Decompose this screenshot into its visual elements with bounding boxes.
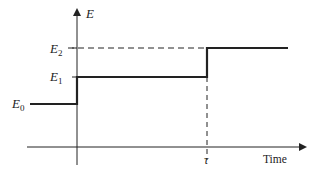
- e2-label: E2: [49, 41, 62, 58]
- y-axis-label: E: [85, 6, 94, 21]
- energy-step-curve: [30, 48, 288, 104]
- x-axis-label: Time: [263, 153, 287, 165]
- energy-step-diagram: E Time τ E2 E1 E0: [0, 0, 315, 176]
- e1-label: E1: [49, 69, 62, 86]
- tau-label: τ: [204, 153, 209, 167]
- e0-label: E0: [11, 96, 25, 113]
